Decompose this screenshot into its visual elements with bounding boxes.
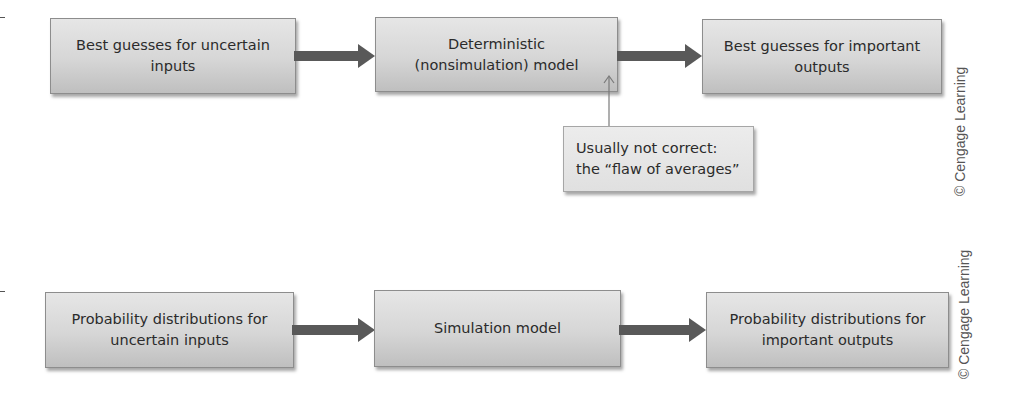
arrow-right-icon [294, 43, 376, 69]
box-label: Probability distributions for uncertain … [62, 309, 277, 351]
box-deterministic-model: Deterministic (nonsimulation) model [375, 17, 618, 92]
box-label: Best guesses for important outputs [722, 36, 922, 78]
arrow-right-icon [292, 317, 376, 343]
box-label: Deterministic (nonsimulation) model [389, 34, 604, 76]
callout-flaw-of-averages: Usually not correct: the “flaw of averag… [563, 126, 754, 192]
box-probability-inputs: Probability distributions for uncertain … [45, 292, 294, 368]
copyright-watermark: © Cengage Learning [952, 67, 968, 196]
box-label: Probability distributions for important … [720, 309, 935, 351]
box-label: Simulation model [434, 318, 561, 339]
arrow-right-icon [617, 43, 703, 69]
edge-mark [0, 17, 5, 18]
box-best-guesses-outputs: Best guesses for important outputs [702, 19, 942, 94]
box-simulation-model: Simulation model [374, 290, 621, 367]
arrow-right-icon [619, 317, 707, 343]
box-probability-outputs: Probability distributions for important … [706, 292, 949, 368]
callout-label: Usually not correct: the “flaw of averag… [576, 138, 743, 180]
edge-mark [0, 291, 5, 292]
box-label: Best guesses for uncertain inputs [73, 35, 273, 77]
copyright-watermark: © Cengage Learning [956, 250, 972, 379]
box-best-guesses-inputs: Best guesses for uncertain inputs [50, 18, 296, 94]
pointer-arrow-up-icon [602, 74, 616, 128]
